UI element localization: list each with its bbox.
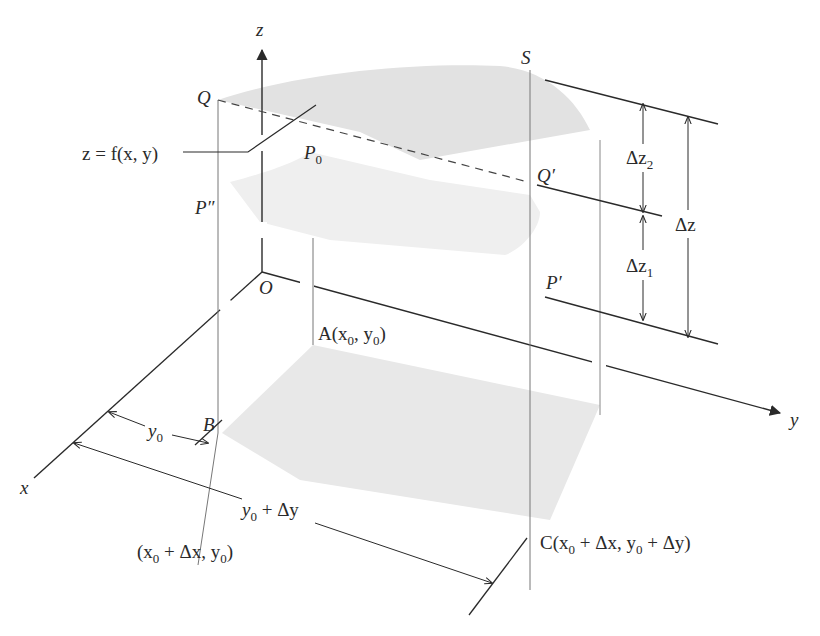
point-B-label: B: [203, 415, 215, 434]
point-C-label: C(x0 + Δx, y0 + Δy): [540, 533, 691, 552]
delta-z1-label: Δz1: [626, 256, 653, 275]
surface-middle: [230, 152, 540, 255]
point-P0-label: P0: [304, 143, 322, 162]
surface-base: [222, 345, 600, 520]
origin-label: O: [259, 278, 273, 297]
y0-dimension-label: y0: [148, 421, 163, 440]
delta-z2-label: Δz2: [626, 148, 653, 167]
point-A-label: A(x0, y0): [318, 324, 386, 343]
point-Q-prime-label: Q′: [537, 166, 555, 185]
surface-label: z = f(x, y): [82, 144, 158, 163]
y0-plus-dy-dimension-label: y0 + Δy: [242, 500, 299, 519]
point-P-double-prime-label: P″: [195, 198, 215, 217]
x-axis-label: x: [20, 478, 28, 497]
diagram-canvas: [0, 0, 820, 636]
y-axis-label: y: [790, 410, 798, 429]
point-P-prime-label: P′: [546, 273, 562, 292]
delta-z-label: Δz: [675, 215, 696, 234]
point-Q-label: Q: [197, 88, 211, 107]
point-S-label: S: [521, 48, 531, 67]
z-axis-label: z: [256, 20, 263, 39]
surface-top: [218, 65, 590, 160]
point-B-coords-label: (x0 + Δx, y0): [137, 542, 233, 561]
